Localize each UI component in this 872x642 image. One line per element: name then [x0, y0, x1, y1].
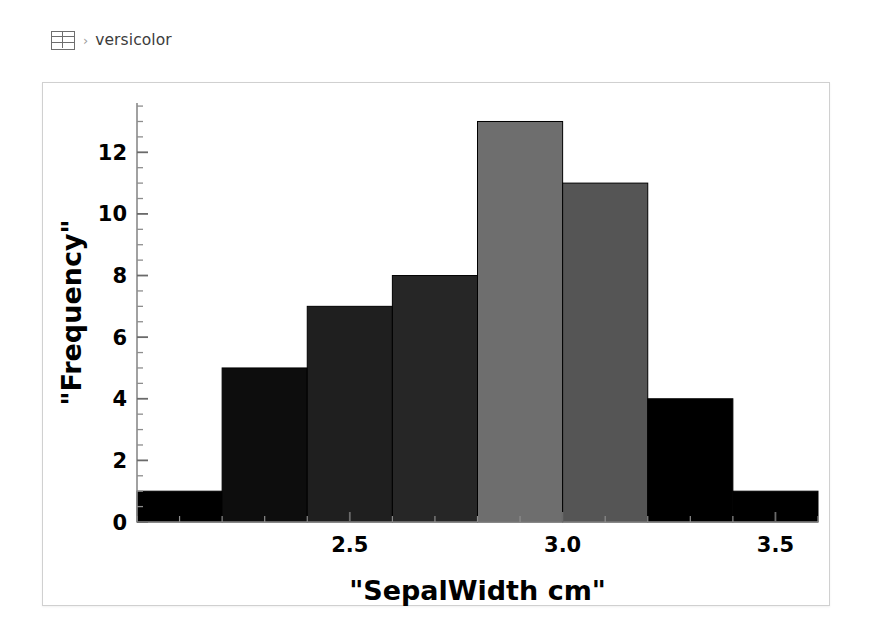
- y-tick-label: 4: [112, 387, 127, 411]
- x-tick-label: 3.5: [757, 533, 794, 557]
- histogram-svg: 0246810122.53.03.5"SepalWidth cm""Freque…: [43, 83, 831, 607]
- y-tick-label: 8: [112, 264, 127, 288]
- y-tick-label: 10: [98, 202, 127, 226]
- chart-card: 0246810122.53.03.5"SepalWidth cm""Freque…: [42, 82, 830, 606]
- breadcrumb[interactable]: › versicolor: [51, 27, 172, 53]
- x-tick-label: 2.5: [331, 533, 368, 557]
- histogram-bar: [648, 399, 733, 522]
- histogram-bar: [392, 276, 477, 522]
- breadcrumb-separator-icon: ›: [81, 34, 89, 47]
- y-tick-label: 6: [112, 326, 127, 350]
- y-tick-label: 2: [112, 449, 127, 473]
- histogram-bar: [222, 368, 307, 522]
- histogram-plot: 0246810122.53.03.5"SepalWidth cm""Freque…: [43, 83, 831, 607]
- y-tick-label: 12: [98, 141, 127, 165]
- breadcrumb-label[interactable]: versicolor: [95, 31, 172, 49]
- x-tick-label: 3.0: [544, 533, 581, 557]
- screenshot-root: › versicolor 0246810122.53.03.5"SepalWid…: [0, 0, 872, 642]
- table-grid-icon[interactable]: [51, 31, 75, 50]
- histogram-bar: [563, 183, 648, 522]
- x-axis-label: "SepalWidth cm": [349, 575, 606, 606]
- y-axis-label: "Frequency": [56, 219, 87, 405]
- histogram-bar: [478, 121, 563, 522]
- y-tick-label: 0: [112, 511, 127, 535]
- histogram-bar: [307, 306, 392, 522]
